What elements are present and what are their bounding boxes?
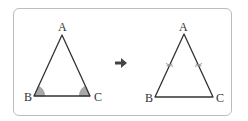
diagram-canvas: A B C A B C	[0, 0, 248, 121]
triangle-abc-right	[155, 34, 213, 97]
label-a-right: A	[179, 20, 188, 34]
label-a-left: A	[58, 20, 67, 34]
diagram-stage: A B C A B C	[0, 0, 248, 121]
label-c-left: C	[94, 90, 102, 104]
triangle-abc-left	[34, 35, 90, 96]
label-b-left: B	[24, 90, 32, 104]
left-triangle: A B C	[24, 20, 102, 104]
label-c-right: C	[216, 91, 224, 105]
right-triangle: A B C	[145, 20, 224, 105]
label-b-right: B	[145, 91, 153, 105]
right-arrow-icon	[115, 58, 127, 68]
